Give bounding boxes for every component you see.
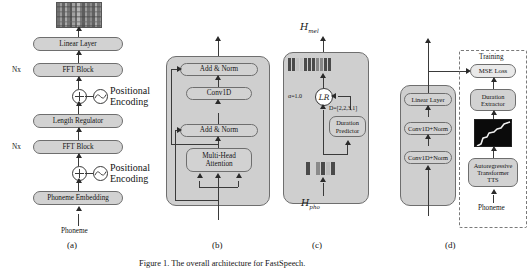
block-fft-top-label: FFT Block [62, 66, 93, 74]
repeat-label-bottom: Nx [12, 143, 21, 151]
block-add-norm-top-label: Add & Norm [200, 65, 238, 73]
block-phoneme-embedding-label: Phoneme Embedding [47, 194, 109, 202]
block-duration-extractor[interactable]: Duration Extractor [470, 89, 516, 111]
block-fft-top[interactable]: FFT Block [33, 63, 123, 77]
block-d-conv1d-norm-top-label: Conv1D+Norm [408, 125, 448, 132]
bar-e11 [328, 58, 331, 71]
arrow-d-conv2-to-conv1 [425, 134, 431, 139]
arrow-qkv-left [197, 173, 203, 178]
block-duration-predictor-line1: Duration [336, 119, 359, 126]
h-pho-subscript: pho [309, 204, 320, 210]
arrow-fft-bot-to-lr [76, 127, 82, 132]
block-duration-extractor-line1: Duration [482, 93, 505, 100]
sine-wave-icon [94, 90, 107, 103]
connector-lr-from-trunk [323, 110, 324, 154]
alignment-svg [475, 120, 512, 147]
connector-qkv-mid [218, 178, 219, 187]
bar-e6 [308, 58, 311, 71]
phoneme-hidden-bars [306, 162, 335, 175]
bar-e8 [316, 58, 319, 71]
arrow-d-input-trunk [425, 165, 431, 170]
connector-qkv-right [238, 181, 239, 187]
arrow-into-lr [320, 104, 326, 109]
residual-skip-bottom-v [175, 130, 176, 200]
connector-c-input [323, 183, 324, 196]
arrow-addnorm-bot-to-conv [215, 99, 221, 104]
arrow-pe-top-up [76, 76, 82, 81]
connector-dp-from-trunk-h [323, 154, 348, 155]
bar-e2 [292, 58, 295, 71]
sine-wave-icon-2 [94, 167, 107, 180]
block-d-conv1d-norm-bottom[interactable]: Conv1D+Norm [404, 151, 452, 164]
arrow-emb-to-add-bot [76, 178, 82, 183]
arrow-d-output-trunk [425, 38, 431, 43]
expanded-hidden-bars [288, 58, 331, 71]
connector-d-input-trunk [428, 170, 429, 216]
arrow-conv-to-addnorm-top [215, 75, 221, 80]
arrow-extractor-to-mse [491, 77, 497, 82]
block-linear-layer[interactable]: Linear Layer [33, 37, 123, 51]
arrow-dp-input [345, 140, 351, 145]
bar-e5 [304, 58, 307, 71]
bar-p4 [321, 162, 325, 175]
figure-caption: Figure 1. The overall architecture for F… [139, 259, 305, 268]
block-phoneme-embedding[interactable]: Phoneme Embedding [33, 191, 123, 205]
block-length-regulator[interactable]: Length Regulator [33, 114, 123, 128]
arrow-lr-to-add-top [76, 101, 82, 106]
connector-addnorm-bot-to-conv [218, 113, 219, 124]
arrow-qkv-right [236, 173, 242, 178]
panel-label-a: (a) [67, 240, 77, 250]
connector-lr-to-expanded [323, 78, 324, 88]
block-d-linear-layer-label: Linear Layer [411, 96, 444, 103]
block-fft-bottom[interactable]: FFT Block [33, 140, 123, 154]
block-linear-layer-label: Linear Layer [59, 40, 96, 48]
panel-c-input-symbol: Hpho [301, 198, 320, 210]
block-fft-bottom-label: FFT Block [62, 143, 93, 151]
attention-alignment-image [474, 119, 512, 147]
block-duration-predictor[interactable]: Duration Predictor [329, 116, 366, 137]
bar-e1 [288, 58, 291, 71]
bar-p1 [306, 162, 310, 175]
block-mse-loss-label: MSE Loss [479, 67, 508, 75]
block-length-regulator-label: Length Regulator [53, 117, 104, 125]
arrow-b-output [215, 36, 221, 41]
bar-e9 [320, 58, 323, 71]
panel-label-b: (b) [212, 240, 223, 250]
bar-p3 [316, 162, 320, 175]
arrow-fft-top-to-linear [76, 50, 82, 55]
bar-p5 [326, 162, 330, 175]
bar-p6 [331, 162, 335, 175]
mel-spectrogram-svg [57, 3, 102, 28]
arrow-d-conv1-to-linear [425, 105, 431, 110]
arrow-residual-top [177, 66, 182, 72]
block-ar-tts-line1: Autoregressive [474, 162, 513, 169]
connector-d-output-trunk [428, 40, 429, 93]
arrow-duration-to-lr [331, 93, 336, 99]
arrow-c-out [320, 36, 326, 41]
arrow-pe-bot-up [76, 153, 82, 158]
block-mha-label-line1: Multi-Head [202, 152, 236, 160]
arrow-residual-bottom [177, 127, 182, 133]
connector-qkv-bus [199, 187, 238, 188]
arrow-mha-to-addnorm [215, 136, 221, 141]
block-autoregressive-tts[interactable]: Autoregressive Transformer TTS [468, 158, 518, 187]
residual-skip-bottom-h-in [175, 200, 218, 201]
connector-duration-to-lr [338, 96, 350, 97]
block-multi-head-attention[interactable]: Multi-Head Attention [186, 148, 252, 172]
arrow-d-phoneme-to-tts [491, 189, 497, 194]
alpha-label: α=1.0 [288, 93, 302, 100]
positional-encoding-top-line2: Encoding [110, 96, 148, 107]
h-mel-subscript: mel [308, 28, 318, 34]
connector-b-input-trunk [218, 187, 219, 220]
residual-skip-top-v [171, 69, 172, 144]
connector-d-phoneme-to-tts [493, 195, 494, 203]
bar-e10 [324, 58, 327, 71]
block-mse-loss[interactable]: MSE Loss [470, 64, 516, 78]
arrow-qkv-mid [215, 173, 221, 178]
mel-spectrogram-image [56, 2, 102, 28]
connector-input-to-emb [78, 214, 79, 226]
residual-skip-top-h-in [171, 144, 218, 145]
arrow-c-input [320, 177, 326, 182]
block-ar-tts-line2: Transformer [477, 169, 509, 176]
